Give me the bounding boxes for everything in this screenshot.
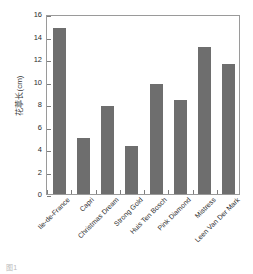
y-axis-tick-mark: [47, 39, 51, 40]
y-axis-tick-mark: [47, 174, 51, 175]
y-axis-tick-mark: [47, 61, 51, 62]
plot-area: [46, 15, 240, 195]
y-axis-tick-label: 8: [38, 101, 42, 109]
x-axis-tick-mark: [47, 190, 48, 194]
bar-chart-figure: 花葶长(cm) 0246810121416 Ile-de-FranceCapri…: [0, 0, 253, 274]
y-axis-tick-mark: [47, 129, 51, 130]
bar: [222, 64, 235, 195]
x-axis-tick-mark: [144, 190, 145, 194]
y-axis-tick-label: 12: [34, 56, 42, 64]
x-axis-tick-mark: [168, 190, 169, 194]
bar: [53, 28, 66, 195]
bar: [77, 138, 90, 194]
x-axis-tick-label: Leen Van Der Mark: [193, 196, 241, 244]
y-axis-tick-label: 10: [34, 79, 42, 87]
bar: [198, 47, 211, 194]
y-axis-tick-label: 0: [38, 191, 42, 199]
y-axis-tick-label: 4: [38, 146, 42, 154]
y-axis-tick-mark: [47, 106, 51, 107]
y-axis-tick-label: 2: [38, 169, 42, 177]
y-axis-title: 花葶长(cm): [11, 52, 27, 138]
x-axis-tick-mark: [96, 190, 97, 194]
bar-series: [47, 16, 239, 194]
y-axis-title-text: 花葶长(cm): [15, 75, 24, 115]
x-axis-tick-label: Ile-de-France: [37, 196, 72, 231]
x-axis-tick-mark: [193, 190, 194, 194]
y-axis-tick-labels: 0246810121416: [26, 15, 42, 195]
bar: [101, 106, 114, 194]
x-axis-tick-mark: [120, 190, 121, 194]
y-axis-tick-label: 6: [38, 124, 42, 132]
y-axis-tick-label: 14: [34, 34, 42, 42]
y-axis-tick-mark: [47, 84, 51, 85]
x-axis-tick-labels: Ile-de-FranceCapriChristmas DreamStrong …: [46, 196, 240, 258]
y-axis-tick-label: 16: [34, 11, 42, 19]
bar: [174, 100, 187, 194]
x-axis-tick-mark: [217, 190, 218, 194]
x-axis-tick-mark: [71, 190, 72, 194]
figure-caption: 图1: [6, 262, 18, 272]
bar: [125, 146, 138, 194]
x-axis-tick-label: Capri: [79, 196, 96, 213]
y-axis-tick-mark: [47, 151, 51, 152]
bar: [150, 84, 163, 194]
y-axis-tick-mark: [47, 16, 51, 17]
